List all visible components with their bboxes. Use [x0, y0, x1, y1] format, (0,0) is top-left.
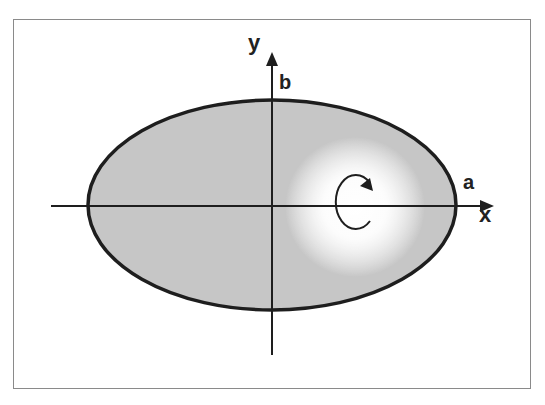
y-axis-arrow-icon [266, 52, 278, 66]
x-axis-label: x [479, 204, 491, 226]
semi-major-axis-label: a [463, 172, 474, 192]
semi-minor-axis-label: b [279, 72, 291, 92]
ellipse-diagram [0, 0, 545, 405]
y-axis-label: y [248, 32, 260, 54]
